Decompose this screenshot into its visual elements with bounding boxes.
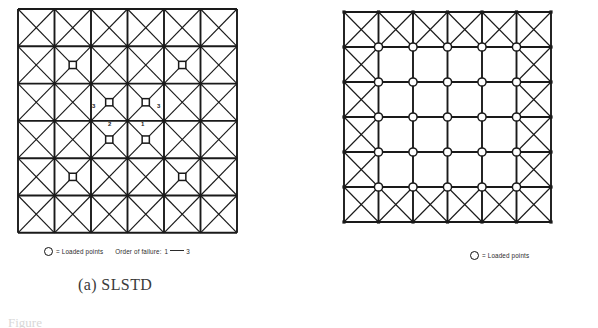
grid-node <box>126 157 129 160</box>
legend-arrow-dash-icon <box>170 250 184 251</box>
grid-node <box>162 119 165 122</box>
legend-order-start: 1 <box>165 248 169 255</box>
grid-node <box>53 194 56 197</box>
legend-order-end: 3 <box>186 248 190 255</box>
grid-node <box>411 220 414 223</box>
loaded-point-marker <box>443 78 451 86</box>
circle-marker-icon <box>470 251 479 260</box>
grid-node <box>549 185 552 188</box>
loaded-point-marker <box>512 183 520 191</box>
grid-node <box>549 115 552 118</box>
grid-node <box>126 45 129 48</box>
grid-node <box>162 194 165 197</box>
loaded-point-marker <box>512 113 520 121</box>
figure-panel-slstd: = Loaded points Order of failure: 1 3 (a… <box>0 0 290 328</box>
figure-panel-sld: = Loaded points (b) SLD <box>300 0 598 328</box>
grid-node <box>199 119 202 122</box>
loaded-point-marker <box>409 43 417 51</box>
grid-node <box>89 194 92 197</box>
loaded-point-marker <box>142 136 149 143</box>
grid-node <box>89 157 92 160</box>
grid-node <box>411 10 414 13</box>
grid-node <box>199 194 202 197</box>
grid-node <box>89 82 92 85</box>
loaded-point-marker <box>478 78 486 86</box>
grid-node <box>446 220 449 223</box>
grid-node <box>162 82 165 85</box>
loaded-point-marker <box>443 43 451 51</box>
grid-node <box>199 157 202 160</box>
grid-node <box>515 220 518 223</box>
loaded-point-marker <box>374 43 382 51</box>
grid-node <box>53 82 56 85</box>
grid-node <box>342 80 345 83</box>
loaded-point-marker <box>69 173 76 180</box>
loaded-point-marker <box>512 78 520 86</box>
grid-node <box>342 10 345 13</box>
loaded-point-marker <box>374 78 382 86</box>
grid-node <box>342 115 345 118</box>
loaded-point-marker <box>478 148 486 156</box>
grid-node <box>549 150 552 153</box>
loaded-point-marker <box>179 173 186 180</box>
legend-slstd: = Loaded points Order of failure: 1 3 <box>44 247 190 256</box>
subcaption-slstd: (a) SLSTD <box>78 276 152 294</box>
grid-node <box>126 119 129 122</box>
loaded-point-marker <box>409 183 417 191</box>
grid-node <box>126 82 129 85</box>
grid-node <box>446 10 449 13</box>
legend-order-prefix: Order of failure: <box>115 248 161 255</box>
grid-node <box>162 45 165 48</box>
grid-node <box>515 10 518 13</box>
grid-node <box>89 45 92 48</box>
circle-marker-icon <box>44 247 53 256</box>
loaded-point-marker <box>374 183 382 191</box>
failure-order-label: 1 <box>141 121 144 127</box>
grid-node <box>549 45 552 48</box>
sld-grid-diagram <box>300 0 598 240</box>
legend-loaded-points-label: = Loaded points <box>482 252 529 259</box>
loaded-point-marker <box>374 113 382 121</box>
grid-node <box>377 220 380 223</box>
loaded-point-marker <box>69 61 76 68</box>
grid-node <box>199 45 202 48</box>
grid-node <box>549 220 552 223</box>
failure-order-label: 3 <box>157 103 160 109</box>
grid-node <box>89 119 92 122</box>
grid-node <box>53 119 56 122</box>
grid-node <box>342 185 345 188</box>
loaded-point-marker <box>409 78 417 86</box>
grid-node <box>480 10 483 13</box>
grid-node <box>162 157 165 160</box>
grid-node <box>126 194 129 197</box>
figure-reference-text: Figure <box>8 315 42 328</box>
loaded-point-marker <box>409 113 417 121</box>
loaded-point-marker <box>106 136 113 143</box>
grid-node <box>53 45 56 48</box>
grid-node <box>342 150 345 153</box>
loaded-point-marker <box>106 99 113 106</box>
loaded-point-marker <box>512 148 520 156</box>
loaded-point-marker <box>179 61 186 68</box>
loaded-point-marker <box>478 113 486 121</box>
loaded-point-marker <box>478 183 486 191</box>
grid-node <box>480 220 483 223</box>
grid-node <box>549 80 552 83</box>
grid-node <box>377 10 380 13</box>
slstd-grid-diagram <box>0 0 290 240</box>
loaded-point-marker <box>443 113 451 121</box>
grid-node <box>199 82 202 85</box>
loaded-point-marker <box>142 99 149 106</box>
failure-order-label: 2 <box>108 121 111 127</box>
loaded-point-marker <box>409 148 417 156</box>
grid-node <box>342 220 345 223</box>
grid-node <box>549 10 552 13</box>
failure-order-label: 3 <box>92 103 95 109</box>
loaded-point-marker <box>443 148 451 156</box>
loaded-point-marker <box>443 183 451 191</box>
loaded-point-marker <box>512 43 520 51</box>
loaded-point-marker <box>374 148 382 156</box>
loaded-point-marker <box>478 43 486 51</box>
grid-node <box>53 157 56 160</box>
legend-sld: = Loaded points <box>470 251 529 260</box>
